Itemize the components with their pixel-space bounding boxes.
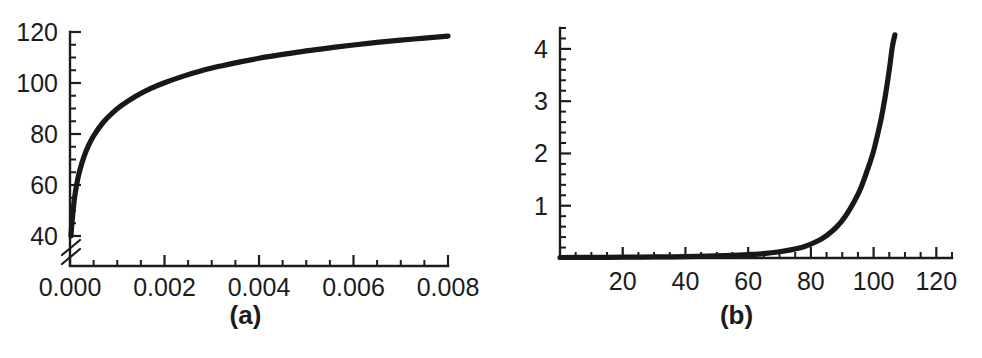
chart-panel-b: 1234 20406080100120 (b) — [491, 0, 982, 358]
panel-label-b: (b) — [491, 300, 982, 331]
y-tick-label: 2 — [534, 139, 548, 167]
y-tick-label: 60 — [30, 171, 58, 199]
x-tick-label: 80 — [797, 267, 825, 295]
panel-label-a: (a) — [0, 300, 491, 331]
chart-panel-a: 406080100120 0.0000.0020.0040.0060.008 (… — [0, 0, 491, 358]
y-tick-label: 1 — [534, 192, 548, 220]
x-tick-label: 40 — [672, 267, 700, 295]
y-tick-label: 3 — [534, 87, 548, 115]
y-tick-label: 4 — [534, 35, 548, 63]
x-tick-label: 120 — [915, 267, 957, 295]
axis-lines-b — [560, 28, 952, 258]
x-tick-label: 20 — [609, 267, 637, 295]
x-tick-label: 100 — [853, 267, 895, 295]
data-curve-a — [71, 36, 448, 236]
figure-container: 406080100120 0.0000.0020.0040.0060.008 (… — [0, 0, 982, 358]
y-axis-ticks-b — [560, 28, 571, 258]
x-axis-labels-b: 20406080100120 — [609, 267, 957, 295]
chart-b-axes — [560, 28, 952, 258]
axis-lines-a — [70, 32, 448, 266]
y-tick-label: 40 — [30, 222, 58, 250]
y-tick-label: 100 — [16, 69, 58, 97]
x-axis-ticks-a — [70, 255, 448, 266]
x-tick-label: 0.002 — [133, 273, 196, 301]
x-tick-label: 0.000 — [39, 273, 102, 301]
x-axis-labels-a: 0.0000.0020.0040.0060.008 — [39, 273, 480, 301]
x-tick-label: 0.008 — [417, 273, 480, 301]
x-tick-label: 0.004 — [228, 273, 291, 301]
y-axis-labels-a: 406080100120 — [16, 18, 58, 250]
chart-a-axes — [70, 32, 448, 266]
y-axis-labels-b: 1234 — [534, 35, 548, 220]
data-curve-b — [560, 35, 895, 258]
x-tick-label: 60 — [734, 267, 762, 295]
x-tick-label: 0.006 — [322, 273, 385, 301]
y-tick-label: 80 — [30, 120, 58, 148]
y-tick-label: 120 — [16, 18, 58, 46]
